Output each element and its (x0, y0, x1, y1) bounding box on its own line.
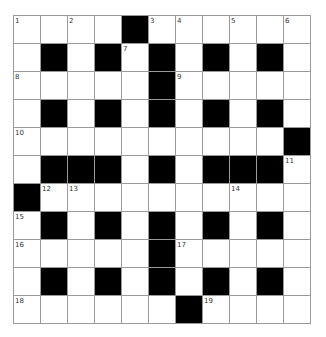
crossword-cell[interactable] (230, 240, 257, 268)
crossword-cell[interactable] (14, 156, 41, 184)
crossword-cell[interactable]: 6 (284, 16, 311, 44)
crossword-cell[interactable] (68, 72, 95, 100)
crossword-cell[interactable]: 10 (14, 128, 41, 156)
crossword-cell[interactable] (257, 296, 284, 324)
clue-number: 6 (285, 17, 289, 25)
crossword-cell[interactable] (230, 100, 257, 128)
crossword-cell[interactable] (122, 128, 149, 156)
crossword-cell[interactable] (95, 240, 122, 268)
clue-number: 9 (177, 73, 181, 81)
crossword-cell[interactable] (68, 100, 95, 128)
crossword-cell[interactable] (257, 184, 284, 212)
crossword-cell[interactable] (41, 128, 68, 156)
crossword-cell[interactable] (203, 16, 230, 44)
crossword-cell[interactable] (122, 156, 149, 184)
crossword-cell[interactable] (230, 44, 257, 72)
crossword-cell[interactable] (284, 212, 311, 240)
crossword-cell[interactable] (41, 240, 68, 268)
crossword-cell[interactable]: 8 (14, 72, 41, 100)
crossword-cell[interactable] (41, 72, 68, 100)
crossword-cell[interactable] (203, 184, 230, 212)
crossword-cell[interactable] (122, 212, 149, 240)
crossword-cell[interactable] (257, 128, 284, 156)
crossword-cell[interactable] (257, 72, 284, 100)
crossword-cell[interactable]: 16 (14, 240, 41, 268)
crossword-cell[interactable]: 11 (284, 156, 311, 184)
crossword-cell[interactable] (284, 296, 311, 324)
black-square (203, 268, 230, 296)
crossword-cell[interactable]: 14 (230, 184, 257, 212)
crossword-cell[interactable] (41, 296, 68, 324)
crossword-cell[interactable] (68, 240, 95, 268)
crossword-cell[interactable]: 18 (14, 296, 41, 324)
crossword-cell[interactable]: 1 (14, 16, 41, 44)
crossword-cell[interactable] (41, 16, 68, 44)
crossword-cell[interactable] (122, 268, 149, 296)
crossword-cell[interactable] (68, 268, 95, 296)
crossword-cell[interactable] (149, 296, 176, 324)
crossword-cell[interactable] (68, 212, 95, 240)
black-square (257, 100, 284, 128)
crossword-cell[interactable] (95, 184, 122, 212)
black-square (95, 156, 122, 184)
crossword-cell[interactable] (230, 128, 257, 156)
crossword-cell[interactable] (68, 296, 95, 324)
crossword-cell[interactable] (203, 240, 230, 268)
crossword-cell[interactable]: 13 (68, 184, 95, 212)
crossword-cell[interactable] (284, 44, 311, 72)
black-square (149, 156, 176, 184)
crossword-cell[interactable] (176, 268, 203, 296)
black-square (95, 100, 122, 128)
crossword-cell[interactable]: 3 (149, 16, 176, 44)
crossword-cell[interactable] (149, 184, 176, 212)
clue-number: 15 (15, 213, 24, 221)
crossword-cell[interactable] (230, 212, 257, 240)
crossword-cell[interactable] (176, 128, 203, 156)
crossword-cell[interactable] (122, 100, 149, 128)
black-square (257, 212, 284, 240)
crossword-cell[interactable] (122, 184, 149, 212)
crossword-cell[interactable] (14, 268, 41, 296)
black-square (257, 268, 284, 296)
crossword-cell[interactable] (230, 72, 257, 100)
crossword-cell[interactable] (149, 128, 176, 156)
crossword-cell[interactable] (176, 44, 203, 72)
crossword-cell[interactable] (122, 240, 149, 268)
crossword-cell[interactable] (203, 72, 230, 100)
crossword-cell[interactable]: 5 (230, 16, 257, 44)
crossword-cell[interactable] (284, 184, 311, 212)
crossword-cell[interactable] (14, 100, 41, 128)
crossword-cell[interactable] (257, 16, 284, 44)
crossword-cell[interactable] (284, 72, 311, 100)
crossword-cell[interactable] (284, 100, 311, 128)
crossword-cell[interactable] (230, 268, 257, 296)
crossword-cell[interactable] (284, 240, 311, 268)
crossword-cell[interactable] (95, 72, 122, 100)
crossword-cell[interactable] (176, 156, 203, 184)
crossword-cell[interactable] (14, 44, 41, 72)
crossword-cell[interactable] (68, 44, 95, 72)
crossword-cell[interactable] (257, 240, 284, 268)
crossword-cell[interactable]: 9 (176, 72, 203, 100)
crossword-cell[interactable]: 19 (203, 296, 230, 324)
crossword-cell[interactable]: 15 (14, 212, 41, 240)
crossword-cell[interactable] (95, 296, 122, 324)
crossword-cell[interactable]: 17 (176, 240, 203, 268)
crossword-cell[interactable] (95, 16, 122, 44)
crossword-cell[interactable]: 2 (68, 16, 95, 44)
crossword-cell[interactable]: 7 (122, 44, 149, 72)
crossword-cell[interactable] (203, 128, 230, 156)
crossword-cell[interactable] (176, 184, 203, 212)
crossword-cell[interactable] (95, 128, 122, 156)
crossword-cell[interactable]: 12 (41, 184, 68, 212)
crossword-cell[interactable] (176, 100, 203, 128)
crossword-cell[interactable] (284, 268, 311, 296)
crossword-cell[interactable] (230, 296, 257, 324)
crossword-cell[interactable] (122, 296, 149, 324)
black-square (41, 156, 68, 184)
black-square (41, 212, 68, 240)
crossword-cell[interactable]: 4 (176, 16, 203, 44)
crossword-cell[interactable] (122, 72, 149, 100)
crossword-cell[interactable] (176, 212, 203, 240)
crossword-cell[interactable] (68, 128, 95, 156)
